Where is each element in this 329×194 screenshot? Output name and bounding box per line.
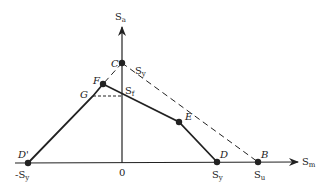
point-d-prime: [25, 160, 31, 166]
label-sy-x: Sy: [212, 169, 223, 182]
label-e: E: [184, 111, 193, 122]
label-neg-sy: -Sy: [15, 169, 29, 182]
point-e: [176, 119, 182, 125]
goodman-diagram: Sa Sm 0 C F G E D B D' Sy Sf -Sy Sy Su: [0, 0, 329, 194]
label-d: D: [219, 149, 228, 160]
point-f: [100, 81, 106, 87]
label-c: C: [111, 58, 119, 69]
label-su: Su: [254, 169, 266, 182]
label-f: F: [92, 75, 101, 86]
origin-label: 0: [119, 167, 125, 178]
label-d-prime: D': [17, 149, 29, 160]
label-g: G: [80, 89, 88, 100]
label-b: B: [260, 149, 268, 160]
point-c: [119, 60, 125, 66]
x-axis-label: Sm: [302, 156, 316, 169]
y-axis-label: Sa: [115, 11, 126, 24]
